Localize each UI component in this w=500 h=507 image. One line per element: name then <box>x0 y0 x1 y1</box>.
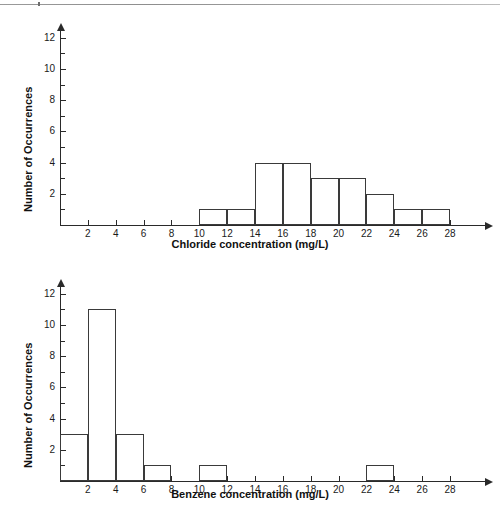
bar-chloride-12-14 <box>227 209 255 225</box>
y-tick-major-chloride-12 <box>61 38 66 39</box>
y-tick-major-benzene-8 <box>61 356 66 357</box>
x-tick-benzene-18 <box>311 476 312 481</box>
bar-chloride-18-20 <box>311 178 339 225</box>
bar-chloride-22-24 <box>366 194 394 225</box>
bar-chloride-16-18 <box>283 163 311 225</box>
y-tick-minor-chloride-5 <box>61 147 65 148</box>
y-tick-major-chloride-8 <box>61 100 66 101</box>
x-tick-chloride-28 <box>450 220 451 225</box>
y-tick-label-chloride-12: 12 <box>33 32 55 43</box>
bar-chloride-26-28 <box>422 209 450 225</box>
x-tick-benzene-24 <box>394 476 395 481</box>
y-tick-major-chloride-10 <box>61 69 66 70</box>
y-tick-major-benzene-6 <box>61 387 66 388</box>
plot-area-chloride: 24681012246810121416182022242628 <box>0 0 500 258</box>
x-axis-line-benzene <box>60 481 485 482</box>
y-tick-label-benzene-12: 12 <box>33 288 55 299</box>
x-axis-title-benzene: Benzene concentration (mg/L) <box>0 488 500 500</box>
y-tick-minor-chloride-7 <box>61 116 65 117</box>
y-tick-label-chloride-8: 8 <box>33 94 55 105</box>
y-axis-arrow-chloride <box>57 23 65 31</box>
y-axis-arrow-benzene <box>57 279 65 287</box>
y-tick-label-chloride-4: 4 <box>33 157 55 168</box>
bar-benzene-10-12 <box>199 465 227 481</box>
y-tick-label-chloride-2: 2 <box>33 188 55 199</box>
y-tick-minor-chloride-1 <box>61 209 65 210</box>
x-tick-benzene-12 <box>227 476 228 481</box>
x-axis-arrow-chloride <box>485 222 493 230</box>
bar-chloride-20-22 <box>339 178 367 225</box>
x-axis-line-chloride <box>60 225 485 226</box>
x-axis-title-chloride: Chloride concentration (mg/L) <box>0 238 500 250</box>
bar-benzene-6-8 <box>144 465 172 481</box>
bar-benzene-22-24 <box>366 465 394 481</box>
chart-chloride-histogram: 24681012246810121416182022242628 Number … <box>0 0 500 258</box>
y-tick-major-benzene-12 <box>61 294 66 295</box>
y-tick-label-benzene-4: 4 <box>33 413 55 424</box>
y-tick-major-chloride-2 <box>61 194 66 195</box>
bar-benzene-0-2 <box>60 434 88 481</box>
bar-benzene-4-6 <box>116 434 144 481</box>
x-tick-chloride-2 <box>88 220 89 225</box>
bar-benzene-2-4 <box>88 309 116 481</box>
y-tick-major-chloride-6 <box>61 131 66 132</box>
x-tick-benzene-14 <box>255 476 256 481</box>
y-tick-label-benzene-6: 6 <box>33 381 55 392</box>
y-axis-line-chloride <box>60 30 61 225</box>
y-tick-minor-benzene-7 <box>61 372 65 373</box>
bar-chloride-24-26 <box>394 209 422 225</box>
x-tick-chloride-4 <box>116 220 117 225</box>
y-tick-major-chloride-4 <box>61 163 66 164</box>
x-tick-benzene-16 <box>283 476 284 481</box>
x-tick-chloride-8 <box>171 220 172 225</box>
x-tick-benzene-20 <box>339 476 340 481</box>
y-tick-minor-chloride-11 <box>61 53 65 54</box>
x-tick-benzene-26 <box>422 476 423 481</box>
y-axis-title-chloride: Number of Occurrences <box>22 87 34 212</box>
y-tick-major-benzene-4 <box>61 419 66 420</box>
y-tick-minor-chloride-3 <box>61 178 65 179</box>
x-axis-arrow-benzene <box>485 478 493 486</box>
y-tick-minor-benzene-11 <box>61 309 65 310</box>
y-tick-minor-benzene-9 <box>61 341 65 342</box>
y-tick-label-chloride-6: 6 <box>33 125 55 136</box>
chart-benzene-histogram: 24681012246810121416182022242628 Number … <box>0 258 500 507</box>
y-tick-label-benzene-10: 10 <box>33 319 55 330</box>
y-axis-title-benzene: Number of Occurrences <box>22 343 34 468</box>
y-tick-label-benzene-8: 8 <box>33 350 55 361</box>
plot-area-benzene: 24681012246810121416182022242628 <box>0 258 500 507</box>
y-tick-label-benzene-2: 2 <box>33 444 55 455</box>
y-tick-minor-benzene-5 <box>61 403 65 404</box>
bar-chloride-14-16 <box>255 163 283 225</box>
x-tick-chloride-6 <box>144 220 145 225</box>
bar-chloride-10-12 <box>199 209 227 225</box>
y-tick-major-benzene-10 <box>61 325 66 326</box>
x-tick-benzene-28 <box>450 476 451 481</box>
x-tick-benzene-8 <box>171 476 172 481</box>
y-tick-label-chloride-10: 10 <box>33 63 55 74</box>
y-tick-minor-chloride-9 <box>61 85 65 86</box>
